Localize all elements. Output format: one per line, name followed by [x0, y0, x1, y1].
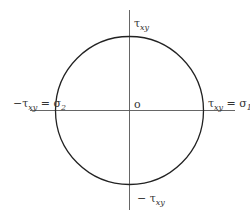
label-tau-top: τxy — [134, 18, 149, 32]
tau-subscript: xy — [140, 23, 149, 32]
tau-subscript: xy — [28, 103, 37, 112]
sigma-subscript: 2 — [61, 103, 66, 112]
tau-subscript: xy — [214, 103, 223, 112]
label-tau-bottom: − τxy — [137, 193, 165, 207]
equals-sigma: = σ — [37, 97, 61, 110]
label-sigma1-right: τxy = σ1 — [208, 98, 250, 112]
equals-sigma: = σ — [223, 97, 247, 110]
label-origin: o — [134, 99, 141, 110]
tau-subscript: xy — [156, 198, 165, 207]
minus-sign: − — [13, 97, 22, 110]
minus-sign: − — [137, 192, 150, 205]
origin-label: o — [134, 98, 141, 111]
label-sigma2-left: −τxy = σ2 — [13, 98, 66, 112]
sigma-subscript: 1 — [247, 103, 250, 112]
